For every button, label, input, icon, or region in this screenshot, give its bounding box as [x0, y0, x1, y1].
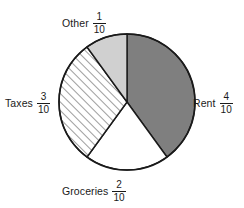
- slice-fraction-groceries-denominator: 10: [112, 192, 125, 203]
- slice-label-rent: Rent 4 10: [193, 92, 233, 115]
- slice-fraction-groceries-numerator: 2: [115, 180, 123, 191]
- slice-fraction-other: 1 10: [93, 12, 106, 35]
- slice-label-other-text: Other: [62, 18, 89, 29]
- slice-fraction-other-denominator: 10: [93, 24, 106, 35]
- slice-label-other: Other 1 10: [62, 12, 106, 35]
- slice-fraction-taxes-numerator: 3: [40, 92, 48, 103]
- slice-label-groceries: Groceries 2 10: [62, 180, 126, 203]
- slice-fraction-taxes: 3 10: [37, 92, 50, 115]
- pie-chart-figure: Other 1 10 Rent 4 10 Taxes 3 10 Grocerie…: [0, 0, 244, 208]
- slice-fraction-groceries: 2 10: [112, 180, 125, 203]
- slice-label-groceries-text: Groceries: [62, 186, 108, 197]
- slice-fraction-taxes-denominator: 10: [37, 104, 50, 115]
- slice-fraction-rent-denominator: 10: [220, 104, 233, 115]
- slice-fraction-rent: 4 10: [220, 92, 233, 115]
- slice-label-taxes: Taxes 3 10: [5, 92, 50, 115]
- slice-label-taxes-text: Taxes: [5, 98, 33, 109]
- slice-fraction-rent-numerator: 4: [222, 92, 230, 103]
- slice-fraction-other-numerator: 1: [96, 12, 104, 23]
- slice-label-rent-text: Rent: [193, 98, 216, 109]
